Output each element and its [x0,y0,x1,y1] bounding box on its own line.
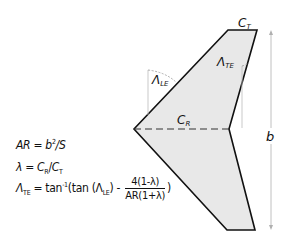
span-label: b [266,129,274,144]
span-arrow-bottom-icon [269,225,273,230]
span-arrow-top-icon [269,30,273,35]
te-sweep-fraction: 4(1-λ) AR(1+λ) [125,175,165,202]
te-sweep-equation: ΛTE = tan-1(tan (ΛLE) - 4(1-λ) AR(1+λ) ) [16,175,171,202]
tip-chord-label: CT [238,16,251,31]
aspect-ratio-equation: AR = b2/S [16,138,66,152]
taper-ratio-equation: λ = CR/CT [16,160,63,176]
wing-diagram: b CT CR ΛLE ΛTE [0,0,287,247]
